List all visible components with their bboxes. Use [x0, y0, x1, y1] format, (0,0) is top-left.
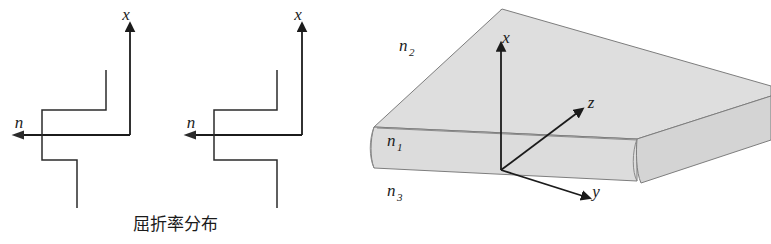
profile-right-n-label: n	[187, 113, 196, 132]
waveguide-label-n2-subscript: 2	[409, 46, 415, 58]
figure-root: x n x n 屈折率分布	[0, 0, 771, 244]
profile-left: x n	[15, 5, 130, 208]
waveguide-label-n1-base: n	[387, 131, 396, 150]
waveguide-label-n3-base: n	[387, 181, 396, 200]
profile-left-curve	[42, 70, 106, 208]
profile-right-x-label: x	[293, 5, 302, 24]
profile-left-n-label: n	[15, 113, 24, 132]
profile-right-curve	[214, 70, 277, 208]
waveguide-axis-z-label: z	[587, 93, 595, 112]
profile-left-x-label: x	[121, 5, 130, 24]
waveguide-label-n3-subscript: 3	[396, 191, 403, 203]
waveguide-axis-x-label: x	[501, 28, 510, 47]
waveguide-label-n3: n 3	[387, 181, 403, 203]
profile-caption: 屈折率分布	[133, 214, 218, 234]
waveguide-axis-y-label: y	[590, 182, 600, 201]
waveguide-label-n1-subscript: 1	[397, 141, 403, 153]
waveguide-label-n2-base: n	[399, 36, 408, 55]
waveguide-3d: n 2 n 1 n 3 x y z	[370, 9, 771, 203]
profile-right: x n	[187, 5, 302, 208]
waveguide-label-n2: n 2	[399, 36, 415, 58]
